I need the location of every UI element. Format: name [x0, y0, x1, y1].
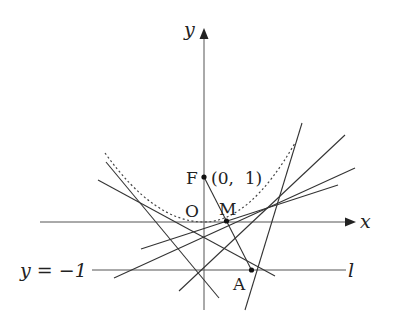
directrix-name-label: l — [348, 259, 354, 281]
y-axis-label: y — [183, 18, 195, 40]
parabola-diagram: y x O F (0, 1) M A y = −1 l — [0, 0, 393, 329]
focus-label: F — [186, 168, 198, 188]
x-axis-arrow-icon — [345, 218, 356, 227]
parabola-curve — [105, 143, 295, 222]
tangent-line-6 — [106, 162, 219, 298]
tangent-line-5 — [98, 180, 275, 276]
segment-fa — [204, 177, 252, 271]
tangent-line-1 — [245, 123, 302, 310]
directrix-equation-label: y = −1 — [19, 259, 87, 281]
point-a — [249, 267, 254, 272]
midpoint-label: M — [219, 199, 236, 219]
focus-coords-label: (0, 1) — [211, 168, 262, 188]
point-f — [201, 174, 206, 179]
point-a-label: A — [232, 274, 246, 294]
point-m — [224, 218, 229, 223]
x-axis-label: x — [360, 210, 371, 232]
origin-label: O — [185, 201, 199, 221]
y-axis-arrow-icon — [200, 28, 209, 39]
